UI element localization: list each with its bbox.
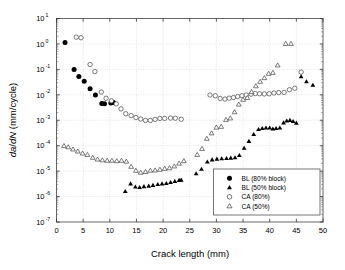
- data-point: [93, 69, 97, 73]
- data-point: [124, 112, 128, 116]
- data-point: [231, 95, 235, 99]
- data-point: [227, 96, 231, 100]
- data-point: [257, 92, 261, 96]
- y-tick-label-base: 10: [36, 192, 44, 201]
- data-point: [162, 116, 166, 120]
- data-point: [79, 36, 83, 40]
- data-point: [262, 92, 266, 96]
- x-tick-label: 10: [106, 226, 114, 235]
- data-point: [72, 67, 77, 72]
- data-point: [63, 40, 68, 45]
- data-point: [93, 93, 98, 98]
- data-point: [299, 70, 303, 74]
- x-tick-label: 0: [54, 226, 58, 235]
- legend-marker-filled-circle: [227, 176, 232, 181]
- y-tick-label-exponent: -5: [46, 165, 51, 171]
- x-axis-label: Crack length (mm): [151, 248, 229, 259]
- data-point: [129, 113, 133, 117]
- data-point: [158, 116, 162, 120]
- data-point: [74, 35, 78, 39]
- x-tick-label: 20: [159, 226, 167, 235]
- data-point: [218, 96, 222, 100]
- y-tick-label-base: 10: [36, 218, 44, 227]
- x-tick-label: 30: [212, 226, 220, 235]
- legend[interactable]: BL (80% block)BL (50% block)CA (80%)CA (…: [214, 169, 321, 215]
- data-point: [104, 96, 108, 100]
- y-axis-label: da/dN (mm/cycle): [7, 83, 18, 157]
- x-tick-label: 35: [239, 226, 247, 235]
- data-point: [76, 74, 81, 79]
- data-point: [88, 62, 92, 66]
- x-tick-label: 5: [81, 226, 85, 235]
- data-point: [102, 101, 107, 106]
- data-point: [282, 90, 286, 94]
- y-tick-label-exponent: -6: [46, 190, 51, 196]
- x-tick-label: 25: [186, 226, 194, 235]
- data-point: [240, 94, 244, 98]
- data-point: [82, 79, 87, 84]
- y-tick-label-exponent: -3: [46, 114, 51, 120]
- data-point: [134, 115, 138, 119]
- data-point: [139, 117, 143, 121]
- y-tick-label-exponent: 0: [46, 38, 49, 44]
- data-point: [168, 116, 172, 120]
- data-point: [99, 90, 103, 94]
- legend-marker-open-circle: [227, 195, 232, 200]
- data-point: [143, 118, 147, 122]
- data-point: [272, 91, 276, 95]
- x-tick-label: 50: [319, 226, 327, 235]
- y-tick-label-exponent: -4: [46, 139, 51, 145]
- data-point: [173, 116, 177, 120]
- y-tick-label-base: 10: [36, 14, 44, 23]
- data-point: [153, 117, 157, 121]
- data-point: [114, 102, 118, 106]
- y-tick-label-base: 10: [36, 40, 44, 49]
- x-tick-label: 45: [292, 226, 300, 235]
- y-tick-label-base: 10: [36, 167, 44, 176]
- x-tick-label: 40: [266, 226, 274, 235]
- figure-container: 05101520253035404550 10-710-610-510-410-…: [0, 0, 345, 270]
- data-point: [293, 86, 297, 90]
- y-tick-label-exponent: -7: [46, 216, 51, 222]
- x-tick-label: 15: [132, 226, 140, 235]
- y-tick-label-base: 10: [36, 116, 44, 125]
- data-point: [267, 92, 271, 96]
- data-point: [148, 118, 152, 122]
- data-point: [208, 93, 212, 97]
- y-tick-label-exponent: -1: [46, 63, 51, 69]
- legend-label[interactable]: BL (80% block): [242, 175, 286, 183]
- y-tick-label-base: 10: [36, 65, 44, 74]
- legend-label[interactable]: BL (50% block): [242, 184, 286, 192]
- legend-label[interactable]: CA (80%): [242, 193, 270, 201]
- legend-label[interactable]: CA (50%): [242, 203, 270, 211]
- y-tick-label-exponent: -2: [46, 88, 51, 94]
- data-point: [213, 94, 217, 98]
- data-point: [277, 90, 281, 94]
- y-tick-label-base: 10: [36, 141, 44, 150]
- data-point: [236, 94, 240, 98]
- data-point: [119, 107, 123, 111]
- data-point: [88, 86, 93, 91]
- data-point: [179, 117, 183, 121]
- y-tick-label-exponent: 1: [46, 12, 49, 18]
- data-point: [287, 88, 291, 92]
- data-point: [223, 97, 227, 101]
- data-point: [109, 99, 113, 103]
- y-tick-label-base: 10: [36, 91, 44, 100]
- crack-growth-rate-chart: 05101520253035404550 10-710-610-510-410-…: [0, 0, 345, 270]
